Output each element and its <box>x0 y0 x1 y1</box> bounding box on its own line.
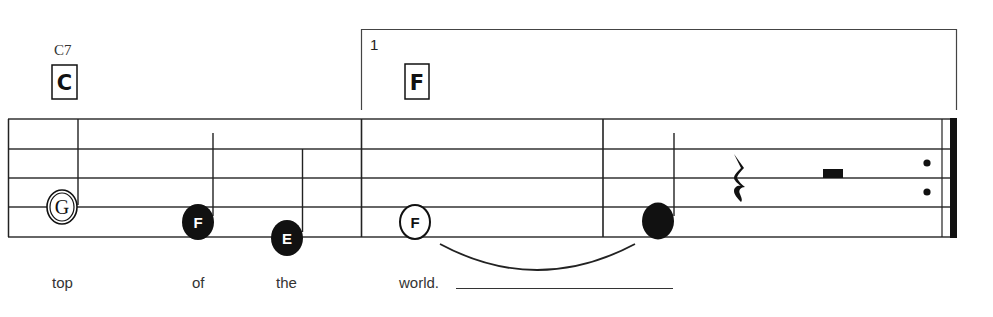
lyric-word: the <box>276 274 297 291</box>
half-rest-icon <box>823 169 843 178</box>
chord-symbol-f: F <box>405 64 429 99</box>
sheet-music: C7 C 1 F G <box>0 0 993 317</box>
lyric-word: world. <box>398 274 439 291</box>
tie-arc <box>440 244 635 270</box>
chord-name: C7 <box>54 42 72 58</box>
note-letter: G <box>55 196 69 218</box>
note-f-whole: F <box>400 205 430 239</box>
staff <box>8 119 957 237</box>
volta-number: 1 <box>370 36 378 53</box>
lyrics: top of the world. <box>52 274 673 291</box>
note-e-quarter: E <box>271 149 303 256</box>
first-ending-bracket: 1 <box>362 30 957 111</box>
barline-thick-final <box>950 118 957 238</box>
chord-symbol-c7: C7 C <box>52 42 77 99</box>
chord-box-letter: C <box>57 71 72 95</box>
note-letter: F <box>193 214 202 231</box>
note-letter: F <box>410 214 419 231</box>
note-g-half: G <box>47 119 78 224</box>
lyric-word: top <box>52 274 73 291</box>
lyric-word: of <box>192 274 205 291</box>
chord-box-letter: F <box>410 71 424 95</box>
note-letter: E <box>282 230 292 247</box>
